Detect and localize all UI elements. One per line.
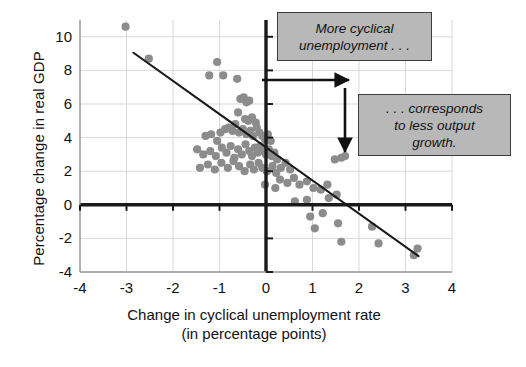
scatter-point [204, 160, 212, 168]
annotation-2-line2: to less output [386, 117, 483, 134]
y-tick-label: 0 [64, 196, 72, 213]
scatter-point [311, 224, 319, 232]
scatter-chart-figure: -4-3-2-101234-4-20246810 Percentage chan… [0, 0, 526, 367]
scatter-point [276, 176, 284, 184]
y-axis-label: Percentage change in real GDP [30, 29, 47, 289]
scatter-point [121, 23, 129, 31]
x-tick-label: 2 [355, 279, 363, 296]
scatter-point [219, 71, 227, 79]
scatter-point [199, 150, 207, 158]
scatter-point [213, 58, 221, 66]
annotation-1-line2: unemployment . . . [299, 37, 410, 54]
scatter-point [341, 152, 349, 160]
x-tick-label: -2 [166, 279, 179, 296]
y-tick-label: 8 [64, 61, 72, 78]
y-tick-label: 2 [64, 162, 72, 179]
y-tick-label: 4 [64, 129, 72, 146]
scatter-point [238, 150, 246, 158]
scatter-point [271, 184, 279, 192]
scatter-point [224, 164, 232, 172]
scatter-point [227, 142, 235, 150]
scatter-point [245, 97, 253, 105]
x-tick-label: 4 [448, 279, 456, 296]
scatter-point [211, 165, 219, 173]
scatter-point [295, 181, 303, 189]
x-tick-label: 1 [308, 279, 316, 296]
scatter-point [217, 159, 225, 167]
scatter-point [241, 167, 249, 175]
x-tick-label: -1 [213, 279, 226, 296]
scatter-point [212, 152, 220, 160]
scatter-point [337, 238, 345, 246]
y-tick-label: 10 [55, 28, 72, 45]
y-tick-label: -4 [59, 263, 72, 280]
annotation-1-line1: More cyclical [299, 20, 410, 37]
scatter-point [290, 174, 298, 182]
scatter-point [374, 239, 382, 247]
y-tick-label: 6 [64, 95, 72, 112]
scatter-point [196, 164, 204, 172]
scatter-point [306, 212, 314, 220]
scatter-point [413, 244, 421, 252]
x-axis-label-line2: (in percentage points) [78, 324, 430, 343]
scatter-point [303, 196, 311, 204]
scatter-point [250, 165, 258, 173]
scatter-point [234, 108, 242, 116]
scatter-point [323, 181, 331, 189]
scatter-point [213, 137, 221, 145]
x-tick-label: -4 [73, 279, 86, 296]
y-tick-label: -2 [59, 229, 72, 246]
x-axis-label-line1: Change in cyclical unemployment rate [78, 305, 430, 324]
scatter-point [207, 130, 215, 138]
x-tick-label: 0 [262, 279, 270, 296]
scatter-point [205, 71, 213, 79]
annotation-more-cyclical-unemployment: More cyclical unemployment . . . [277, 12, 432, 61]
scatter-point [283, 179, 291, 187]
x-tick-label: 3 [401, 279, 409, 296]
x-tick-label: -3 [120, 279, 133, 296]
scatter-point [309, 184, 317, 192]
annotation-corresponds-to-less-output-growth: . . . corresponds to less output growth. [358, 94, 511, 156]
annotation-2-line3: growth. [386, 134, 483, 151]
annotation-2-line1: . . . corresponds [386, 100, 483, 117]
scatter-point [334, 219, 342, 227]
scatter-point [319, 209, 327, 217]
x-axis-label: Change in cyclical unemployment rate (in… [78, 305, 430, 343]
scatter-point [233, 75, 241, 83]
